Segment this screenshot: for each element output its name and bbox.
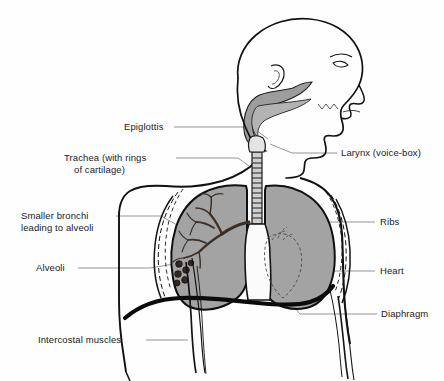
label-alveoli: Alveoli [36,262,65,274]
label-bronchi-line2: leading to alveoli [21,222,94,234]
label-larynx: Larynx (voice-box) [341,147,421,159]
ear-inner [272,71,279,84]
diagram-page: Epiglottis Trachea (with rings of cartil… [0,0,444,381]
label-heart: Heart [380,265,404,277]
label-diaphragm: Diaphragm [381,308,428,320]
label-epiglottis: Epiglottis [124,121,164,133]
ear-icon [268,65,284,89]
respiratory-system-diagram [0,0,444,381]
abdomen-lines [126,372,130,381]
label-trachea-line2: of cartilage) [74,164,125,176]
leader-larynx [270,144,337,153]
eyebrow [330,54,352,57]
face-front-profile [341,85,364,119]
eye-icon [333,61,348,67]
mouth-line [343,111,360,113]
label-intercostal-muscles: Intercostal muscles [38,334,121,346]
leader-trachea [176,158,249,166]
teeth-detail [318,104,338,109]
leader-alveoli [78,263,180,268]
label-trachea-line1: Trachea (with rings [64,152,146,164]
label-bronchi-line1: Smaller bronchi [21,210,89,222]
mediastinum [245,224,271,300]
left-lung [171,185,247,309]
larynx [249,136,266,152]
label-ribs: Ribs [380,216,399,228]
